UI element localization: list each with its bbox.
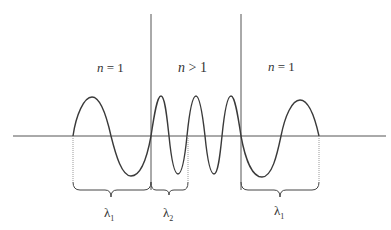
diagram-canvas — [0, 0, 391, 230]
region-label-middle: n > 1 — [178, 60, 207, 76]
brace-lambda2 — [151, 182, 188, 195]
brace-lambda1-right — [241, 182, 319, 197]
wavelength-label-lambda1-right: λ1 — [274, 203, 284, 221]
region-label-left: n = 1 — [97, 60, 124, 76]
region-label-right: n = 1 — [268, 59, 295, 75]
brace-lambda1-left — [73, 182, 151, 197]
wavelength-label-lambda1-left: λ1 — [104, 205, 114, 223]
wavelength-label-lambda2: λ2 — [163, 205, 173, 223]
